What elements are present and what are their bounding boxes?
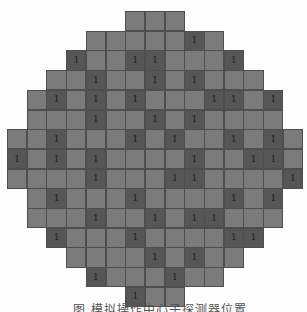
grid-cell: [86, 50, 106, 70]
grid-cell: [27, 110, 47, 130]
grid-cell-marked: 1: [145, 110, 165, 130]
grid-cell-marked: 1: [165, 169, 185, 189]
grid-cell-marked: 1: [7, 149, 27, 169]
grid-cell: [86, 228, 106, 248]
grid-cell: [46, 110, 66, 130]
grid-cell: [184, 267, 204, 287]
grid-cell: [165, 188, 185, 208]
grid-cell-marked: 1: [86, 110, 106, 130]
grid-cell: [66, 129, 86, 149]
cell-label: 1: [93, 174, 99, 183]
grid-cell: [66, 208, 86, 228]
grid-cell: [283, 129, 303, 149]
grid-cell: [66, 228, 86, 248]
grid-cell: [125, 247, 145, 267]
grid-cell: [165, 149, 185, 169]
cell-label: 1: [192, 253, 198, 262]
grid-cell: [106, 267, 126, 287]
grid-cell: [27, 90, 47, 110]
cell-label: 1: [231, 56, 237, 65]
grid-cell: [125, 70, 145, 90]
cell-label: 1: [54, 135, 60, 144]
cell-label: 1: [251, 233, 257, 242]
cell-label: 1: [152, 115, 158, 124]
grid-cell: [243, 169, 263, 189]
figure-caption: 图 模拟操作中心子探测器位置: [40, 302, 280, 312]
cell-label: 1: [132, 95, 138, 104]
grid-cell-marked: 1: [125, 228, 145, 248]
grid-cell-marked: 1: [125, 188, 145, 208]
cell-label: 1: [270, 155, 276, 164]
grid-cell: [263, 208, 283, 228]
grid-cell: [66, 110, 86, 130]
cell-label: 1: [93, 214, 99, 223]
grid-cell: [66, 70, 86, 90]
grid-cell: [66, 169, 86, 189]
grid-cell-marked: 1: [145, 50, 165, 70]
grid-cell: [224, 247, 244, 267]
grid-cell: [145, 149, 165, 169]
grid-cell: [66, 149, 86, 169]
grid-cell-marked: 1: [165, 267, 185, 287]
cell-label: 1: [251, 155, 257, 164]
grid-cell: [184, 188, 204, 208]
grid-cell: [204, 110, 224, 130]
cell-label: 1: [192, 36, 198, 45]
grid-cell: [125, 208, 145, 228]
grid-cell: [165, 110, 185, 130]
grid-cell-marked: 1: [184, 169, 204, 189]
cell-label: 1: [93, 76, 99, 85]
cell-label: 1: [290, 174, 296, 183]
grid-cell: [184, 90, 204, 110]
grid-cell: [243, 70, 263, 90]
grid-cell-marked: 1: [184, 70, 204, 90]
grid-cell: [145, 31, 165, 51]
grid-cell: [184, 228, 204, 248]
grid-cell: [184, 50, 204, 70]
grid-cell: [145, 90, 165, 110]
grid-cell-marked: 1: [184, 110, 204, 130]
grid-cell: [224, 110, 244, 130]
cell-label: 1: [152, 214, 158, 223]
cell-label: 1: [270, 135, 276, 144]
grid-cell: [204, 149, 224, 169]
grid-cell: [86, 31, 106, 51]
cell-label: 1: [132, 233, 138, 242]
grid-cell: [106, 129, 126, 149]
cell-label: 1: [192, 155, 198, 164]
grid-cell: [224, 208, 244, 228]
cell-label: 1: [132, 194, 138, 203]
grid-cell: [165, 228, 185, 248]
grid-cell: [27, 208, 47, 228]
grid-cell: [243, 110, 263, 130]
grid-cell: [243, 208, 263, 228]
grid-cell: [204, 129, 224, 149]
grid-cell-marked: 1: [125, 90, 145, 110]
grid-cell-marked: 1: [184, 208, 204, 228]
cell-label: 1: [132, 56, 138, 65]
grid-cell: [106, 110, 126, 130]
cell-label: 1: [93, 155, 99, 164]
grid-cell-marked: 1: [86, 267, 106, 287]
grid-cell: [165, 11, 185, 31]
grid-cell-marked: 1: [46, 90, 66, 110]
grid-cell-marked: 1: [283, 169, 303, 189]
grid-cell: [106, 31, 126, 51]
grid-cell: [125, 149, 145, 169]
grid-cell-marked: 1: [224, 90, 244, 110]
grid-cell-marked: 1: [263, 129, 283, 149]
cell-label: 1: [211, 214, 217, 223]
grid-cell: [165, 247, 185, 267]
grid-cell-marked: 1: [204, 208, 224, 228]
grid-cell: [204, 70, 224, 90]
cell-label: 1: [54, 233, 60, 242]
grid-cell-marked: 1: [243, 228, 263, 248]
grid-cell-marked: 1: [145, 247, 165, 267]
grid-cell: [106, 149, 126, 169]
grid-cell-marked: 1: [86, 169, 106, 189]
cell-label: 1: [231, 135, 237, 144]
grid-cell: [46, 169, 66, 189]
grid-cell: [145, 11, 165, 31]
cell-label: 1: [270, 194, 276, 203]
grid-cell: [145, 129, 165, 149]
